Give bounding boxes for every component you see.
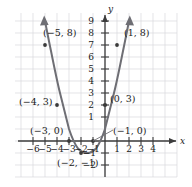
leader-line-neg1-0 [93,130,113,141]
graph-figure: 9 8 7 6 5 4 3 2 1 −1 −2 −6 −5 −4 −3 −2 −… [0,0,192,187]
point-1-8 [115,43,119,47]
xtick-label-1: 1 [114,145,120,154]
ytick-label-5: 5 [88,65,94,74]
xtick-label-4: 4 [150,145,156,154]
ytick-label-2: 2 [88,101,94,110]
ytick-label-8: 8 [88,29,94,38]
x-axis-name: x [180,137,185,146]
point-label-1-8: (1, 8) [124,28,150,38]
ytick-label-1: 1 [88,113,94,122]
curve-arrow-left [40,16,49,26]
ytick-label-9: 9 [88,17,94,26]
point-neg5-8 [43,43,47,47]
point-label-neg2-neg1: (−2, −1) [57,158,98,168]
point-0-3 [103,103,107,107]
xtick-label-2: 2 [126,145,132,154]
ytick-label-6: 6 [88,53,94,62]
point-neg3-0 [67,139,71,143]
point-label-neg1-0: (−1, 0) [113,126,147,136]
point-label-neg5-8: (−5, 8) [43,28,77,38]
y-axis-name: y [108,5,113,14]
curve-arrow-right [125,16,134,26]
point-label-neg3-0: (−3, 0) [30,126,64,136]
ytick-label-3: 3 [88,89,94,98]
ytick-label-4: 4 [88,77,94,86]
y-axis [101,15,109,177]
point-neg4-3 [55,103,59,107]
point-label-neg4-3: (−4, 3) [19,97,53,107]
ytick-label-7: 7 [88,41,94,50]
point-label-0-3: (0, 3) [110,94,136,104]
xtick-label-neg1: −1 [86,145,99,154]
xtick-label-3: 3 [138,145,144,154]
